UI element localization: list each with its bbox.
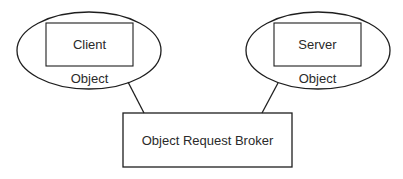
server-object: Server Object (246, 12, 390, 89)
client-object-label: Object (71, 71, 109, 86)
server-object-label: Object (299, 71, 337, 86)
broker-label: Object Request Broker (142, 133, 274, 148)
client-label: Client (73, 37, 107, 52)
server-broker-connector (262, 83, 278, 113)
object-request-broker: Object Request Broker (123, 113, 292, 167)
client-broker-connector (128, 82, 144, 113)
client-object: Client Object (17, 12, 161, 89)
server-label: Server (298, 37, 337, 52)
orb-diagram: Client Object Server Object Object Reque… (0, 0, 403, 179)
